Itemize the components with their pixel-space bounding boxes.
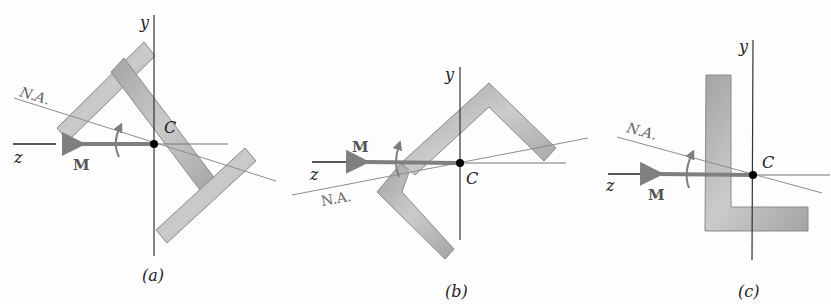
l-section-shape [705, 75, 808, 231]
y-axis-label: y [444, 65, 455, 84]
centroid-dot [456, 159, 464, 167]
centroid-dot [150, 140, 158, 148]
z-axis-label: z [309, 165, 319, 184]
neutral-axis-label: N.A. [320, 188, 353, 209]
z-axis-label: z [13, 148, 23, 167]
z-axis-label: z [605, 176, 615, 195]
panel-caption: (c) [738, 282, 759, 301]
y-axis-label: y [738, 37, 749, 56]
centroid-label: C [762, 153, 774, 172]
centroid-dot [749, 171, 757, 179]
moment-label: M [73, 156, 90, 174]
moment-label: M [648, 186, 665, 204]
centroid-label: C [164, 118, 176, 137]
moment-vector-arrow [660, 174, 751, 175]
centroid-label: C [466, 169, 478, 188]
neutral-axis-label: N.A. [624, 119, 658, 143]
panel-c: y z C M N.A. (c) [605, 37, 830, 301]
panel-a: y z C M N.A. (a) [13, 13, 276, 285]
y-axis-label: y [139, 13, 150, 32]
moment-label: M [352, 138, 369, 156]
figure-bending-unsymmetric-sections: y z C M N.A. (a) y z C M N.A. (b) [0, 0, 831, 304]
moment-vector-arrow [366, 162, 458, 163]
panel-caption: (a) [142, 266, 164, 285]
panel-caption: (b) [445, 282, 468, 301]
moment-rotation-arrow-icon [687, 154, 692, 188]
panel-b: y z C M N.A. (b) [292, 65, 588, 301]
